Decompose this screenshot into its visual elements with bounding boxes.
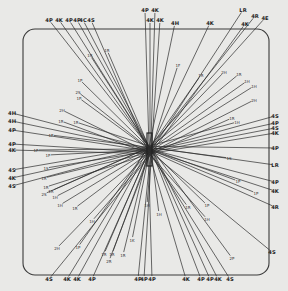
outer-ray-label: LR: [239, 7, 246, 13]
inner-ray-label: 2P: [230, 256, 236, 261]
inner-ray-label: 1R: [72, 206, 78, 211]
outer-ray-label: 4H: [8, 110, 16, 116]
outer-ray: [148, 149, 272, 181]
outer-ray-label: 4S: [268, 249, 276, 255]
inner-ray-label: 1K: [129, 238, 135, 243]
outer-ray: [151, 146, 272, 148]
inner-ray-label: 1R: [185, 205, 191, 210]
inner-ray-label: 1P: [49, 133, 55, 138]
outer-ray-label: 4K: [271, 188, 280, 194]
outer-ray-label: 4K: [151, 7, 160, 13]
outer-ray-label: 4H: [8, 118, 16, 124]
inner-ray-label: 2H: [251, 98, 257, 103]
outer-ray: [84, 23, 151, 152]
outer-ray-label: 4S: [271, 113, 279, 119]
outer-ray-label: 4P: [88, 276, 96, 282]
inner-ray-label: 1P: [76, 245, 82, 250]
outer-ray-label: 4K: [241, 21, 250, 27]
inner-ray-label: 1R: [109, 252, 115, 257]
inner-ray-label: 2R: [106, 259, 112, 264]
inner-ray-label: 1H: [204, 217, 210, 222]
outer-ray-label: 4P: [148, 276, 156, 282]
outer-ray-label: 4S: [45, 276, 53, 282]
inner-ray-label: 1R: [87, 53, 93, 58]
inner-ray-label: 1P: [46, 153, 52, 158]
inner-ray-label: 1P: [205, 203, 211, 208]
inner-ray-label: 1P: [77, 96, 83, 101]
outer-ray-label: 4R: [251, 13, 259, 19]
outer-ray-label: 4S: [226, 276, 234, 282]
inner-ray: [150, 146, 230, 255]
outer-ray-label: 4K: [8, 147, 17, 153]
inner-ray-label: 1H: [251, 84, 257, 89]
inner-ray-label: 2H: [221, 70, 227, 75]
outer-ray-label: 4K: [8, 175, 17, 181]
outer-ray-label: 4P: [197, 276, 205, 282]
outer-ray: [151, 26, 243, 153]
inner-ray-label: 1P: [34, 148, 40, 153]
inner-ray-label: 1R: [120, 253, 126, 258]
outer-ray-label: 4P: [271, 145, 279, 151]
inner-ray-label: 2S: [75, 90, 81, 95]
inner-ray-label: 1R: [58, 119, 64, 124]
rays-group: [15, 13, 272, 277]
inner-ray-label: 2H: [59, 108, 65, 113]
outer-ray-label: 4P: [65, 17, 73, 23]
outer-ray-label: 4K: [182, 276, 191, 282]
outer-ray-label: 4K: [271, 130, 280, 136]
inner-ray: [92, 58, 149, 147]
diagram-canvas: 4P4K4P4P4C4S4P4K4K4K4H4KLR4K4R4E4H4H4P4P…: [0, 0, 288, 291]
outer-ray-label: 4K: [206, 20, 215, 26]
outer-ray-label: 4P: [8, 127, 16, 133]
inner-ray-label: 1H: [57, 203, 63, 208]
inner-ray-label: 1P: [78, 78, 84, 83]
inner-ray: [80, 94, 150, 150]
inner-ray-label: 1P: [236, 179, 242, 184]
inner-ray: [82, 82, 150, 149]
inner-ray-label: 1R: [198, 73, 204, 78]
outer-ray-label: 4P: [45, 17, 53, 23]
outer-ray-label: 4H: [171, 20, 179, 26]
outer-ray-label: 4K: [73, 276, 82, 282]
inner-ray-label: 1P: [254, 191, 260, 196]
inner-ray-label: 1R: [48, 189, 54, 194]
inner-ray-label: 1S: [226, 156, 232, 161]
outer-ray-label: 4P: [141, 7, 149, 13]
inner-ray-label: 1S: [43, 166, 49, 171]
inner-ray-label: 1R: [104, 48, 110, 53]
inner-ray: [54, 135, 151, 147]
inner-ray-label: 2S: [41, 192, 47, 197]
outer-ray-label: 4S: [8, 183, 16, 189]
outer-ray-label: 4E: [261, 15, 269, 21]
inner-ray-label: 1R: [101, 252, 107, 257]
inner-ray-label: 1H: [89, 219, 95, 224]
inner-ray-label: 1H: [244, 79, 250, 84]
inner-ray: [108, 53, 149, 148]
outer-ray: [78, 23, 150, 150]
outer-ray-label: 4S: [87, 17, 95, 23]
inner-ray-label: 1H: [234, 120, 240, 125]
outer-ray: [150, 151, 272, 206]
radial-line-diagram: 4P4K4P4P4C4S4P4K4K4K4H4KLR4K4R4E4H4H4P4P…: [0, 0, 288, 291]
outer-ray-label: 4K: [156, 17, 165, 23]
outer-ray-label: 4P: [271, 179, 279, 185]
outer-ray-label: 4K: [55, 17, 64, 23]
inner-ray-label: 2H: [54, 246, 60, 251]
inner-ray-label: 1R: [236, 72, 242, 77]
inner-ray-label: 1F: [176, 63, 182, 68]
outer-ray-label: 4P: [140, 276, 148, 282]
outer-ray-label: 4K: [146, 17, 155, 23]
outer-ray-label: 4R: [271, 204, 279, 210]
inner-ray: [151, 150, 253, 192]
inner-ray-label: 1H: [52, 195, 58, 200]
inner-ray-label: 1H: [144, 203, 150, 208]
inner-ray-label: 1R: [73, 120, 79, 125]
outer-ray: [149, 154, 185, 277]
outer-ray-label: 4K: [214, 276, 223, 282]
outer-ray: [51, 22, 149, 146]
outer-ray-label: 4C: [79, 17, 87, 23]
outer-ray-label: 4S: [8, 167, 16, 173]
outer-ray: [151, 152, 270, 250]
inner-ray-label: 1R: [41, 176, 47, 181]
outer-ray-label: LR: [271, 162, 278, 168]
